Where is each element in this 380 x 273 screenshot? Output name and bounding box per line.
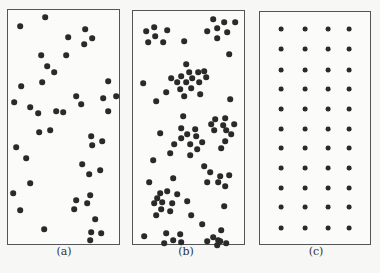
point-dot xyxy=(41,226,47,232)
point-dot xyxy=(326,226,331,231)
point-dot xyxy=(208,121,214,127)
point-dot xyxy=(186,69,192,75)
point-dot xyxy=(18,83,24,89)
point-dot xyxy=(17,207,23,213)
point-dot xyxy=(36,129,42,135)
point-dot xyxy=(188,85,194,91)
point-dot xyxy=(199,139,205,145)
point-dot xyxy=(201,68,207,74)
point-dot xyxy=(168,75,174,81)
panel-label-c: (c) xyxy=(309,245,324,258)
point-dot xyxy=(177,86,183,92)
point-dot xyxy=(347,127,352,132)
point-dot xyxy=(279,68,284,73)
point-dot xyxy=(158,206,164,212)
point-dot xyxy=(231,121,237,127)
point-dot xyxy=(105,78,111,84)
point-dot xyxy=(161,240,167,246)
point-dot xyxy=(222,138,228,144)
point-dot xyxy=(232,19,238,25)
point-dot xyxy=(210,16,216,22)
point-dot xyxy=(178,239,184,245)
point-dot xyxy=(279,146,284,151)
point-dot xyxy=(204,238,210,244)
point-dot xyxy=(105,108,111,114)
point-dot xyxy=(153,212,159,218)
point-dot xyxy=(184,198,190,204)
point-dot xyxy=(153,98,159,104)
point-dot xyxy=(223,240,229,246)
point-dot xyxy=(303,146,308,151)
point-dot xyxy=(181,93,187,99)
point-dot xyxy=(193,133,199,139)
point-dot xyxy=(188,212,194,218)
point-dot xyxy=(326,205,331,210)
point-dot xyxy=(157,130,163,136)
point-dot xyxy=(60,109,66,115)
point-dot xyxy=(81,41,87,47)
point-dot xyxy=(42,14,48,20)
point-dot xyxy=(197,91,203,97)
point-dot xyxy=(196,79,202,85)
point-dot xyxy=(53,108,59,114)
point-dot xyxy=(279,27,284,32)
point-dot xyxy=(199,221,205,227)
point-dot xyxy=(194,146,200,152)
point-dot xyxy=(13,144,19,150)
point-dot xyxy=(347,166,352,171)
point-dot xyxy=(303,27,308,32)
point-dot xyxy=(10,190,16,196)
point-dot xyxy=(178,125,184,131)
point-dot xyxy=(195,69,201,75)
point-dot xyxy=(326,47,331,52)
point-dot xyxy=(73,197,79,203)
point-dot xyxy=(11,99,17,105)
point-dot xyxy=(215,179,221,185)
point-dot xyxy=(226,51,232,57)
point-dot xyxy=(326,27,331,32)
point-dot xyxy=(164,27,170,33)
point-dot xyxy=(181,38,187,44)
point-dot xyxy=(164,188,170,194)
point-dot xyxy=(163,230,169,236)
point-dot xyxy=(143,28,149,34)
point-dot xyxy=(38,52,44,58)
point-dot xyxy=(279,107,284,112)
point-dot xyxy=(145,39,151,45)
point-dot xyxy=(303,186,308,191)
point-dot xyxy=(78,101,84,107)
point-dot xyxy=(71,206,77,212)
point-dot xyxy=(87,237,93,243)
point-dot xyxy=(88,133,94,139)
point-dot xyxy=(347,146,352,151)
point-dot xyxy=(221,19,227,25)
point-dot xyxy=(204,28,210,34)
point-dot xyxy=(347,47,352,52)
point-dot xyxy=(218,227,224,233)
point-dot xyxy=(180,113,186,119)
point-dot xyxy=(207,169,213,175)
point-dot xyxy=(163,89,169,95)
point-dot xyxy=(303,47,308,52)
point-dot xyxy=(17,23,23,29)
point-dot xyxy=(151,200,157,206)
point-dot xyxy=(170,237,176,243)
point-dot xyxy=(226,172,232,178)
point-dot xyxy=(86,171,92,177)
point-dot xyxy=(98,230,104,236)
point-dot xyxy=(88,229,94,235)
point-dot xyxy=(347,68,352,73)
point-dot xyxy=(279,87,284,92)
point-dot xyxy=(174,191,180,197)
point-dot xyxy=(187,152,193,158)
point-dot xyxy=(65,34,71,40)
point-dot xyxy=(169,200,175,206)
point-dot xyxy=(326,166,331,171)
point-dot xyxy=(39,79,45,85)
point-dot xyxy=(326,186,331,191)
point-dot xyxy=(217,173,223,179)
point-dot xyxy=(279,186,284,191)
point-dot xyxy=(184,131,190,137)
point-dot xyxy=(99,138,105,144)
point-dot xyxy=(187,141,193,147)
